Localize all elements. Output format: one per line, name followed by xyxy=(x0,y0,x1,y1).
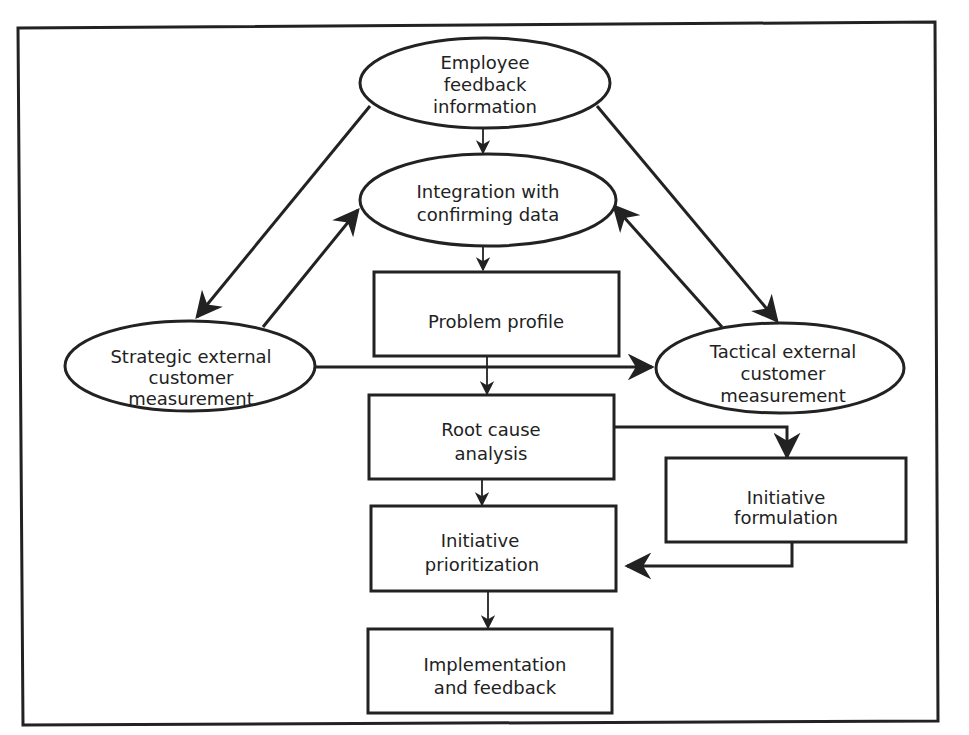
node-tactical: Tactical external customer measurement xyxy=(656,323,904,413)
svg-text:measurement: measurement xyxy=(720,385,846,406)
svg-text:Implementation: Implementation xyxy=(424,654,567,675)
svg-text:customer: customer xyxy=(741,363,826,384)
node-employee-feedback: Employee feedback information xyxy=(360,38,610,128)
svg-text:prioritization: prioritization xyxy=(425,554,539,575)
svg-text:Strategic external: Strategic external xyxy=(110,346,271,367)
svg-text:Initiative: Initiative xyxy=(747,487,826,508)
svg-text:Integration with: Integration with xyxy=(416,181,559,202)
node-implementation: Implementation and feedback xyxy=(368,629,612,713)
svg-text:confirming data: confirming data xyxy=(417,204,559,225)
edge-root-cause-to-formulation xyxy=(613,427,787,457)
svg-text:Tactical external: Tactical external xyxy=(709,341,857,362)
edge-employee-to-strategic xyxy=(197,106,370,317)
edge-tactical-to-integration xyxy=(614,206,722,327)
svg-text:formulation: formulation xyxy=(734,507,838,528)
svg-text:feedback: feedback xyxy=(444,74,527,95)
svg-text:customer: customer xyxy=(149,367,234,388)
svg-text:Problem profile: Problem profile xyxy=(428,311,564,332)
edge-strategic-to-integration xyxy=(263,210,358,327)
svg-text:Employee: Employee xyxy=(440,52,529,73)
svg-text:Initiative: Initiative xyxy=(441,530,520,551)
svg-text:Root cause: Root cause xyxy=(441,419,540,440)
node-strategic: Strategic external customer measurement xyxy=(65,321,315,411)
svg-text:measurement: measurement xyxy=(128,388,254,409)
node-root-cause: Root cause analysis xyxy=(369,395,614,479)
node-initiative-formulation: Initiative formulation xyxy=(666,458,906,542)
node-initiative-prioritization: Initiative prioritization xyxy=(371,506,616,591)
node-integration: Integration with confirming data xyxy=(360,154,616,246)
svg-text:analysis: analysis xyxy=(455,443,528,464)
node-problem-profile: Problem profile xyxy=(374,272,619,356)
edge-formulation-to-prioritization xyxy=(627,543,792,566)
svg-text:and feedback: and feedback xyxy=(434,677,557,698)
svg-text:information: information xyxy=(433,96,537,117)
flow-diagram: Employee feedback information Integratio… xyxy=(0,0,969,735)
